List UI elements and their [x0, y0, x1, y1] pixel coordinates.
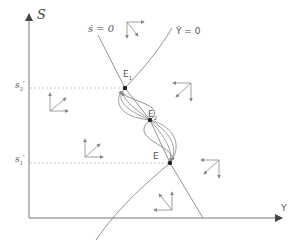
horizontal-axis-label: Y	[281, 204, 287, 213]
phase-diagram-svg	[0, 0, 302, 244]
e3-letter: E	[153, 151, 159, 161]
e1-subscript: 1	[129, 75, 132, 81]
phase-diagram: S Y ṡ = 0 Ẏ = 0 s3′ s1′ E1 E2 E	[0, 0, 302, 244]
vertical-axis-label: S	[37, 8, 46, 21]
arrow-group-bottom-center	[154, 192, 172, 210]
arrow-group-lower-right	[201, 160, 219, 178]
arrow-group-lower-left	[85, 139, 103, 157]
s-dot-zero-line	[98, 35, 203, 218]
lower-level-label: s1′	[15, 155, 25, 166]
arrow-group-upper-right	[173, 83, 191, 101]
arrow-group-upper-left	[50, 93, 68, 111]
upper-level-prime: ′	[23, 80, 25, 90]
equilibrium-e3-label: E	[153, 152, 159, 163]
y-dot-zero-label: Ẏ = 0	[176, 27, 201, 36]
direction-arrows	[50, 22, 219, 210]
upper-level-label: s3′	[15, 81, 25, 92]
equilibrium-e3-point	[168, 161, 172, 165]
equilibrium-e1-label: E1	[123, 70, 132, 81]
s-dot-zero-label: ṡ = 0	[88, 24, 114, 34]
equilibrium-e2-label: E2	[148, 110, 157, 121]
e2-subscript: 2	[154, 115, 157, 121]
arrow-group-top-center	[127, 22, 144, 38]
equilibrium-e1-point	[123, 86, 127, 90]
reference-lines	[30, 88, 168, 163]
lower-level-prime: ′	[23, 154, 25, 164]
